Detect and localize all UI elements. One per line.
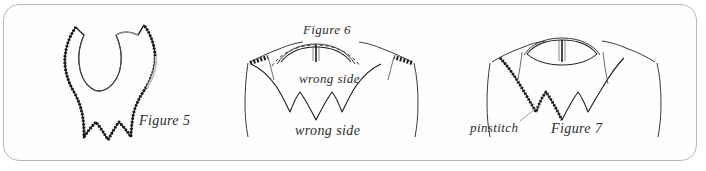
figure-5-caption: Figure 5 (139, 113, 190, 129)
figure-6-wrong-side-lower-label: wrong side (295, 123, 360, 139)
illustration-page: Figure 5 Figure 6 wrong side wrong side … (0, 0, 706, 171)
figure-7-pinstitch-label: pinstitch (470, 120, 518, 136)
figure-7-caption: Figure 7 (551, 121, 602, 137)
figure-6-wrong-side-upper-label: wrong side (299, 71, 360, 87)
figure-6-caption: Figure 6 (303, 22, 351, 38)
